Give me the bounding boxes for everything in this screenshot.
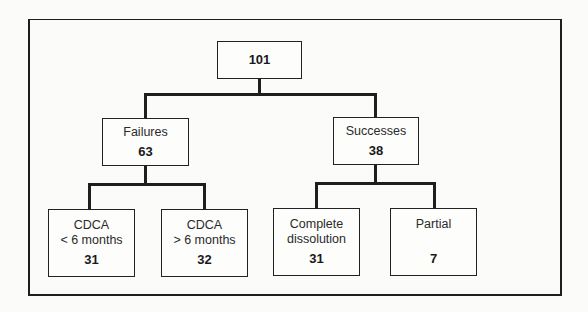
root-node: 101: [217, 41, 302, 79]
complete-value: 31: [309, 251, 323, 267]
connector-successes-bar: [315, 182, 435, 185]
successes-label: Successes: [346, 124, 406, 139]
partial-value: 7: [430, 251, 437, 267]
cdca-long-node: CDCA > 6 months 32: [161, 209, 248, 277]
cdca-long-label-1: CDCA: [187, 218, 222, 233]
partial-label-1: Partial: [416, 217, 451, 232]
connector-to-cdca-short: [88, 183, 91, 209]
connector-to-successes: [374, 93, 377, 117]
connector-to-partial: [433, 182, 436, 208]
failures-node: Failures 63: [102, 118, 189, 166]
connector-failures-bar: [88, 183, 205, 186]
cdca-short-label-2: < 6 months: [60, 233, 122, 248]
failures-label: Failures: [123, 125, 167, 140]
complete-dissolution-node: Complete dissolution 31: [273, 208, 360, 276]
successes-node: Successes 38: [333, 117, 419, 165]
cdca-short-node: CDCA < 6 months 31: [48, 209, 135, 277]
cdca-long-value: 32: [197, 252, 211, 268]
cdca-long-label-2: > 6 months: [173, 233, 235, 248]
successes-value: 38: [369, 143, 383, 159]
partial-node: Partial 7: [390, 208, 477, 276]
connector-to-failures: [144, 93, 147, 118]
connector-root-bar: [145, 93, 376, 96]
cdca-short-value: 31: [84, 252, 98, 268]
failures-value: 63: [138, 144, 152, 160]
complete-label-2: dissolution: [287, 232, 346, 247]
connector-to-cdca-long: [203, 183, 206, 209]
cdca-short-label-1: CDCA: [74, 218, 109, 233]
complete-label-1: Complete: [290, 217, 344, 232]
connector-to-complete: [315, 182, 318, 208]
root-value: 101: [249, 52, 271, 68]
